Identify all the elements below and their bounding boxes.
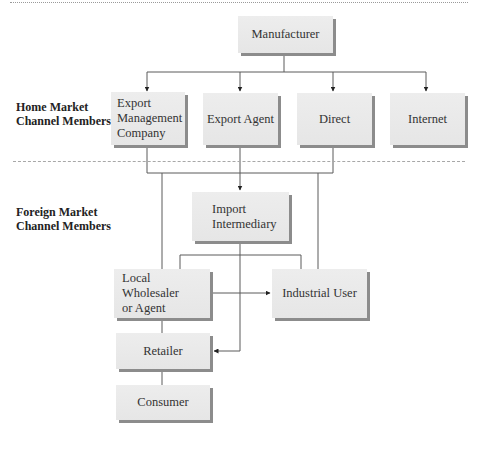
node-import-intermediary: Import Intermediary [192, 192, 289, 241]
foreign-market-label-line1: Foreign Market [16, 205, 111, 219]
node-consumer: Consumer [116, 385, 210, 420]
home-market-label-line2: Channel Members [16, 114, 111, 128]
market-divider [13, 161, 465, 162]
node-consumer-label: Consumer [137, 395, 188, 410]
home-market-label: Home Market Channel Members [16, 100, 111, 128]
node-export-agent-label: Export Agent [207, 112, 274, 127]
node-internet: Internet [390, 93, 465, 145]
node-retailer: Retailer [116, 333, 210, 369]
node-manufacturer-label: Manufacturer [251, 27, 319, 42]
node-export-agent: Export Agent [203, 93, 278, 145]
node-wholesaler-line1: Local Wholesaler [122, 271, 210, 301]
node-retailer-label: Retailer [143, 344, 183, 359]
node-manufacturer: Manufacturer [238, 16, 333, 53]
node-direct: Direct [297, 93, 372, 145]
node-local-wholesaler: Local Wholesaler or Agent [114, 269, 210, 318]
foreign-market-label-line2: Channel Members [16, 219, 111, 233]
node-import-line1: Import [212, 202, 277, 217]
node-emc-line3: Company [117, 126, 182, 141]
node-emc-line2: Management [117, 111, 182, 126]
node-direct-label: Direct [319, 112, 350, 127]
foreign-market-label: Foreign Market Channel Members [16, 205, 111, 233]
node-emc-line1: Export [117, 96, 182, 111]
node-internet-label: Internet [408, 112, 447, 127]
node-export-management-company: Export Management Company [111, 92, 185, 145]
node-industrial-user-label: Industrial User [282, 286, 357, 301]
node-wholesaler-line2: or Agent [122, 301, 210, 316]
node-import-line2: Intermediary [212, 217, 277, 232]
node-industrial-user: Industrial User [272, 269, 367, 318]
home-market-label-line1: Home Market [16, 100, 111, 114]
